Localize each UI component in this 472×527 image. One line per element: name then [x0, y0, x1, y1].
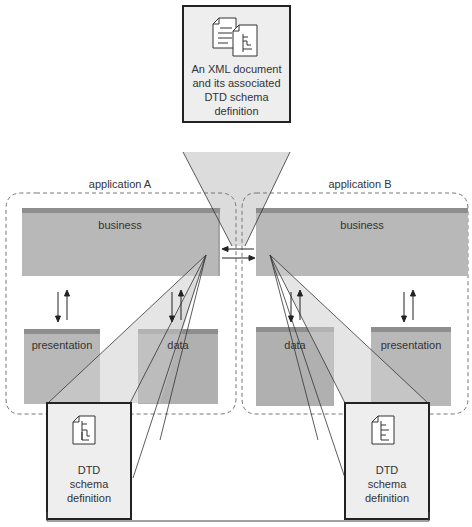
- business-label-a: business: [22, 218, 218, 232]
- dtd-document-icon-b: [372, 416, 394, 444]
- exchange-arrows: [222, 247, 255, 261]
- top-callout-line-1: An XML document: [183, 62, 290, 76]
- dtd-b-line-3: definition: [345, 491, 429, 505]
- dtd-document-icon-a: [73, 416, 95, 444]
- application-a-label: application A: [60, 177, 180, 191]
- top-callout-line-2: and its associated: [183, 76, 290, 90]
- data-label-b: data: [256, 338, 334, 352]
- arrows-business-presentation-b: [402, 290, 416, 322]
- presentation-label-a: presentation: [22, 338, 102, 352]
- dtd-a-line-3: definition: [47, 491, 131, 505]
- data-label-a: data: [138, 338, 218, 352]
- top-callout-text: An XML document and its associated DTD s…: [183, 62, 290, 118]
- application-b-label: application B: [300, 177, 420, 191]
- dtd-callout-text-a: DTD schema definition: [47, 463, 131, 505]
- dtd-callout-text-b: DTD schema definition: [345, 463, 429, 505]
- dtd-a-line-1: DTD: [47, 463, 131, 477]
- presentation-label-b: presentation: [371, 338, 451, 352]
- dtd-a-line-2: schema: [47, 477, 131, 491]
- top-callout-line-3: DTD schema: [183, 90, 290, 104]
- arrows-business-presentation-a: [56, 290, 70, 322]
- top-callout-line-4: definition: [183, 104, 290, 118]
- dtd-b-line-2: schema: [345, 477, 429, 491]
- business-label-b: business: [256, 218, 468, 232]
- dtd-b-line-1: DTD: [345, 463, 429, 477]
